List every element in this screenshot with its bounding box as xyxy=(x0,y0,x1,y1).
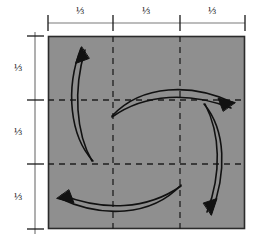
diagram-canvas: ⅓ ⅓ ⅓ ⅓ ⅓ ⅓ xyxy=(0,0,257,241)
top-ruler-label-1: ⅓ xyxy=(76,4,84,16)
top-ruler-label-3: ⅓ xyxy=(208,4,216,16)
left-ruler: ⅓ ⅓ ⅓ xyxy=(14,32,44,234)
left-ruler-label-2: ⅓ xyxy=(14,125,22,137)
figure-container: ⅓ ⅓ ⅓ ⅓ ⅓ ⅓ xyxy=(0,0,257,241)
left-ruler-label-1: ⅓ xyxy=(14,61,22,73)
top-ruler-label-2: ⅓ xyxy=(142,4,150,16)
left-ruler-label-3: ⅓ xyxy=(14,190,22,202)
top-ruler: ⅓ ⅓ ⅓ xyxy=(48,4,245,31)
